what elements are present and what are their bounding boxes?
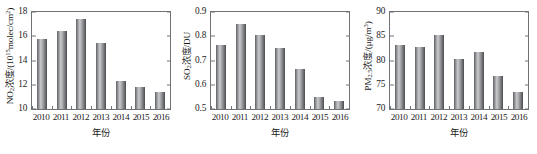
x-tick-mark xyxy=(349,106,350,110)
y-axis-title-unit-exponent: 2 xyxy=(4,11,11,14)
bar-2013 xyxy=(96,43,106,109)
y-tick-mark-right xyxy=(346,36,350,37)
bar-2010 xyxy=(395,45,405,110)
y-tick-label-85: 85 xyxy=(376,32,390,41)
y-tick-mark xyxy=(390,12,394,13)
x-tick-label-2012: 2012 xyxy=(72,112,89,123)
y-tick-label-0.8: 0.8 xyxy=(195,32,211,41)
y-axis-title-species-sub: 2.5 xyxy=(366,70,373,78)
y-tick-mark xyxy=(211,60,215,61)
y-tick-label-16: 16 xyxy=(18,32,32,41)
y-tick-mark-right xyxy=(525,84,529,85)
x-tick-mark xyxy=(111,106,112,110)
x-tick-mark xyxy=(310,106,311,110)
y-axis-title-species-sub: 2 xyxy=(185,65,192,68)
x-tick-mark xyxy=(469,106,470,110)
x-tick-mark xyxy=(410,106,411,110)
y-tick-label-0.5: 0.5 xyxy=(195,104,211,113)
y-axis-title-unit-exponent: 3 xyxy=(362,24,369,27)
x-tick-mark xyxy=(508,106,509,110)
x-tick-label-2015: 2015 xyxy=(491,112,508,123)
y-tick-mark-right xyxy=(525,60,529,61)
y-tick-label-0.9: 0.9 xyxy=(195,7,211,16)
x-tick-mark xyxy=(528,106,529,110)
x-axis-title-so2: 年份 xyxy=(210,127,350,139)
plot-area-so2: 0.50.60.70.80.9 xyxy=(210,11,350,110)
bar-2016 xyxy=(513,92,523,109)
bar-2016 xyxy=(334,101,344,109)
x-tick-mark xyxy=(131,106,132,110)
bar-2012 xyxy=(255,35,265,109)
x-tick-label-2013: 2013 xyxy=(93,112,110,123)
bar-2010 xyxy=(37,39,47,109)
bar-2012 xyxy=(76,19,86,109)
x-axis-tick-labels-no2: 2010201120122013201420152016 xyxy=(31,112,171,123)
y-tick-label-80: 80 xyxy=(376,56,390,65)
x-tick-label-2010: 2010 xyxy=(33,112,50,123)
y-tick-mark-right xyxy=(167,12,171,13)
x-tick-mark xyxy=(489,106,490,110)
x-tick-label-2012: 2012 xyxy=(251,112,268,123)
bar-2015 xyxy=(314,97,324,109)
bar-2010 xyxy=(216,45,226,109)
plot-area-pm25: 7075808590 xyxy=(389,11,529,110)
y-axis-title-species: SO xyxy=(182,69,192,81)
y-axis-title-species: NO xyxy=(5,91,15,104)
y-axis-title-exponent: 15 xyxy=(4,49,11,55)
x-tick-label-2011: 2011 xyxy=(53,112,69,123)
y-tick-mark-right xyxy=(346,84,350,85)
x-tick-mark xyxy=(32,106,33,110)
x-tick-label-2016: 2016 xyxy=(511,112,528,123)
x-tick-label-2011: 2011 xyxy=(411,112,427,123)
bar-2011 xyxy=(57,31,67,109)
bar-2013 xyxy=(275,48,285,109)
x-tick-mark xyxy=(429,106,430,110)
y-tick-mark xyxy=(32,84,36,85)
y-tick-label-12: 12 xyxy=(18,80,32,89)
y-axis-title-close: ) xyxy=(5,8,15,11)
y-tick-mark xyxy=(32,12,36,13)
x-tick-label-2015: 2015 xyxy=(312,112,329,123)
bar-2014 xyxy=(474,52,484,109)
y-tick-mark xyxy=(390,36,394,37)
bar-2015 xyxy=(493,76,503,109)
three-panel-bar-chart-figure: NO2浓度/(1015molec/cm2) 1012141618 2010201… xyxy=(0,0,537,154)
x-tick-label-2014: 2014 xyxy=(113,112,130,123)
y-axis-title-so2: SO2浓度/DU xyxy=(180,0,194,112)
y-tick-mark xyxy=(390,84,394,85)
x-tick-label-2013: 2013 xyxy=(272,112,289,123)
y-tick-mark xyxy=(390,60,394,61)
bar-group-no2 xyxy=(32,12,170,109)
y-tick-label-18: 18 xyxy=(18,7,32,16)
bar-group-so2 xyxy=(211,12,349,109)
y-tick-mark xyxy=(211,12,215,13)
bar-2011 xyxy=(415,47,425,109)
bar-2014 xyxy=(295,69,305,110)
y-tick-label-10: 10 xyxy=(18,104,32,113)
y-axis-title-species: PM xyxy=(363,78,373,91)
y-tick-mark-right xyxy=(525,12,529,13)
y-axis-title-no2: NO2浓度/(1015molec/cm2) xyxy=(1,0,15,112)
bar-2015 xyxy=(135,87,145,109)
y-tick-label-75: 75 xyxy=(376,80,390,89)
x-tick-label-2010: 2010 xyxy=(212,112,229,123)
x-tick-label-2014: 2014 xyxy=(471,112,488,123)
x-tick-mark xyxy=(231,106,232,110)
bar-2016 xyxy=(155,92,165,109)
x-tick-mark xyxy=(290,106,291,110)
y-tick-mark xyxy=(32,36,36,37)
x-tick-mark xyxy=(329,106,330,110)
y-axis-title-text: 浓度/(μg/m xyxy=(363,28,373,70)
x-tick-mark xyxy=(449,106,450,110)
x-tick-mark xyxy=(250,106,251,110)
y-tick-mark xyxy=(211,36,215,37)
bar-2014 xyxy=(116,81,126,109)
y-tick-mark-right xyxy=(167,84,171,85)
bar-group-pm25 xyxy=(390,12,528,109)
y-axis-title-species-sub: 2 xyxy=(8,88,15,91)
y-axis-title-text: 浓度/DU xyxy=(182,32,192,65)
y-tick-mark-right xyxy=(167,36,171,37)
x-axis-title-pm25: 年份 xyxy=(389,127,529,139)
y-tick-label-0.7: 0.7 xyxy=(195,56,211,65)
x-tick-label-2013: 2013 xyxy=(451,112,468,123)
